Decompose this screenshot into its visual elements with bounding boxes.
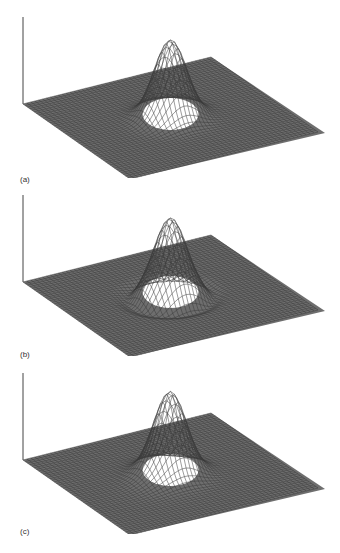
- wireframe-surface: [0, 178, 340, 356]
- surface-plot-b: (b): [0, 178, 340, 356]
- surface-plot-c: (c): [0, 356, 340, 534]
- surface-plot-a: (a): [0, 0, 340, 178]
- wireframe-surface: [0, 0, 340, 178]
- panel-label-c: (c): [20, 527, 29, 536]
- wireframe-surface: [0, 356, 340, 534]
